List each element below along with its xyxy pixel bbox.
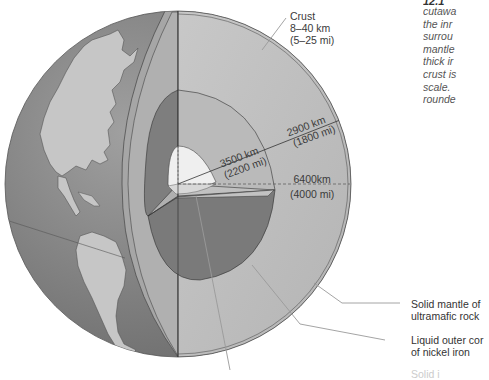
outer-core-callout: Liquid outer cor of nickel iron [411,334,483,358]
caption-line: thick ir [423,55,489,68]
caption-line: crust is [423,68,489,81]
mantle-callout-line1: Solid mantle of [411,298,480,310]
crust-km: 8–40 km [290,22,334,34]
crust-label: Crust 8–40 km (5–25 mi) [290,10,334,46]
outer-core-callout-line2: of nickel iron [411,346,483,358]
mantle-leader [314,283,400,303]
earth-radius-km: 6400km [290,173,334,185]
crust-name: Crust [290,10,334,22]
mantle-callout-line2: ultramafic rock [411,310,480,322]
caption-line: cutawa [423,5,489,18]
figure-caption: 12.1 cutawa the inr surrou mantle thick … [423,0,489,106]
crust-mi: (5–25 mi) [290,34,334,46]
caption-line: mantle [423,43,489,56]
inner-core-callout: Solid i [411,368,440,380]
earth-radius-label: 6400km (4000 mi) [290,173,334,200]
inner-core-callout-line1: Solid i [411,368,440,380]
outer-core-callout-line1: Liquid outer cor [411,334,483,346]
caption-line: surrou [423,30,489,43]
mantle-callout: Solid mantle of ultramafic rock [411,298,480,322]
caption-line: scale. [423,81,489,94]
earth-radius-mi: (4000 mi) [290,188,334,200]
caption-line: the inr [423,18,489,31]
caption-line: rounde [423,93,489,106]
